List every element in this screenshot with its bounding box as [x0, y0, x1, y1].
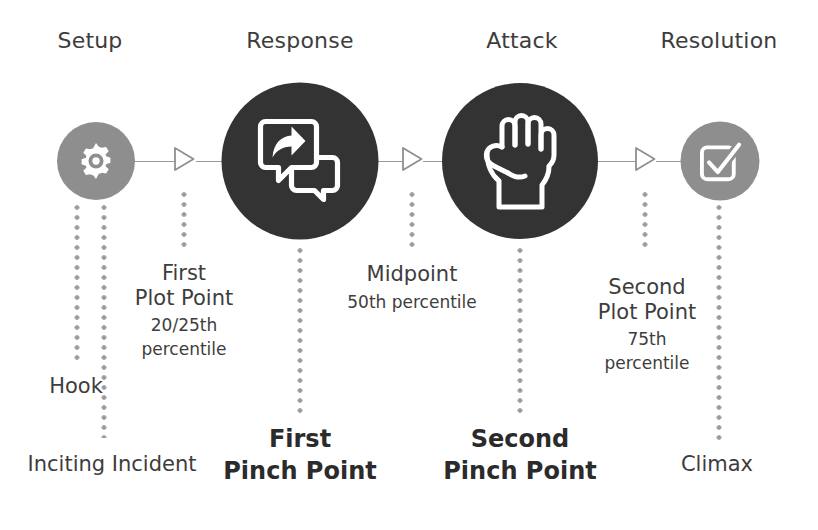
stage-label-resolution: Resolution — [661, 28, 778, 53]
speech-share-icon — [250, 111, 350, 211]
marker-label-second-pinch-point: Second Pinch Point — [443, 424, 596, 487]
marker-label-hook: Hook — [49, 374, 103, 399]
fist-icon — [476, 111, 564, 211]
gear-icon — [75, 140, 117, 182]
stage-node-resolution[interactable] — [681, 122, 760, 201]
story-structure-diagram: Setup Response Attack Resolution — [0, 0, 818, 530]
stage-label-setup: Setup — [57, 28, 122, 53]
marker-label-second-plot-point: Second Plot Point 75th percentile — [598, 275, 696, 373]
stage-label-response: Response — [246, 28, 353, 53]
connector-line-2 — [196, 161, 224, 162]
leader-first-pinch-point — [298, 248, 303, 414]
marker-label-midpoint: Midpoint 50th percentile — [347, 262, 477, 312]
marker-label-first-plot-point: First Plot Point 20/25th percentile — [135, 261, 233, 359]
connector-line-5 — [596, 161, 636, 162]
marker-label-first-pinch-point: First Pinch Point — [223, 424, 376, 487]
arrow-setup-to-response — [171, 145, 197, 178]
stage-node-attack[interactable] — [442, 83, 598, 239]
checkbox-check-icon — [697, 138, 743, 184]
stage-node-setup[interactable] — [57, 122, 135, 200]
marker-label-inciting-incident: Inciting Incident — [28, 452, 197, 477]
leader-inciting-incident — [102, 205, 107, 438]
connector-line-6 — [656, 161, 682, 162]
arrow-response-to-attack — [399, 145, 425, 178]
leader-midpoint — [410, 192, 415, 250]
leader-second-plot-point — [643, 192, 648, 250]
stage-node-response[interactable] — [222, 83, 379, 240]
marker-label-climax: Climax — [681, 452, 753, 477]
leader-hook — [75, 205, 80, 360]
arrow-attack-to-resolution — [632, 145, 658, 178]
leader-second-pinch-point — [518, 248, 523, 414]
leader-climax — [717, 205, 722, 443]
leader-first-plot-point — [182, 192, 187, 250]
stage-label-attack: Attack — [486, 28, 557, 53]
